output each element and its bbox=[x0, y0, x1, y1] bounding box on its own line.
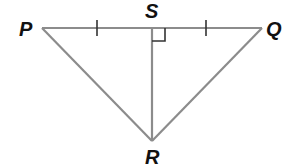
right-angle-marker bbox=[152, 28, 165, 41]
label-p: P bbox=[19, 18, 33, 40]
label-q: Q bbox=[266, 18, 282, 40]
segment-pr bbox=[42, 28, 152, 141]
label-s: S bbox=[145, 0, 159, 22]
label-r: R bbox=[145, 146, 160, 168]
triangle-diagram: P S Q R bbox=[0, 0, 285, 168]
segment-qr bbox=[152, 28, 262, 141]
